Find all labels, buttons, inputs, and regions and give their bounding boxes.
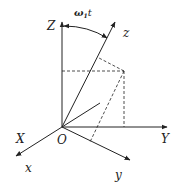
- label-Z: Z: [46, 19, 56, 33]
- label-y: y: [114, 168, 122, 182]
- label-Y: Y: [161, 132, 170, 146]
- dashed-to-z: [99, 58, 124, 71]
- label-z: z: [122, 26, 130, 40]
- angle-t: t: [88, 7, 93, 18]
- label-X: X: [15, 132, 25, 146]
- angle-omega: ω: [74, 7, 84, 18]
- angle-arc: [64, 26, 107, 38]
- y-axis: [62, 127, 130, 160]
- label-origin: O: [57, 133, 67, 147]
- label-x: x: [25, 161, 32, 175]
- coordinate-diagram: Z Y X z y x O ω1t: [0, 0, 180, 184]
- angle-label: ω1t: [74, 7, 93, 19]
